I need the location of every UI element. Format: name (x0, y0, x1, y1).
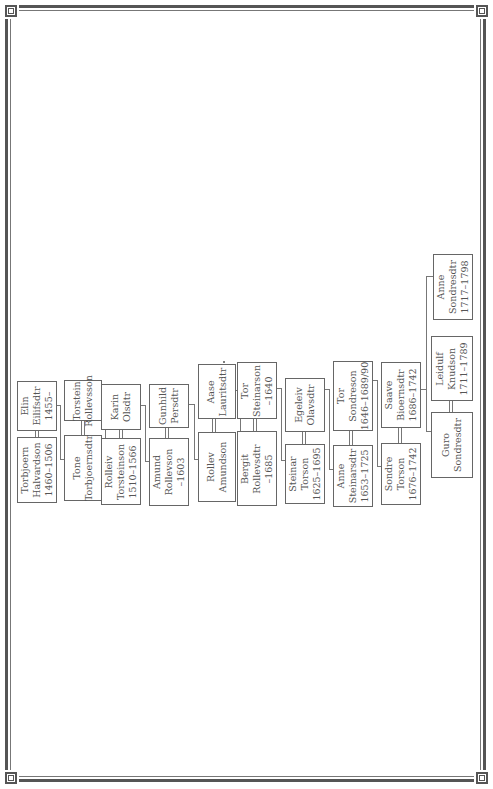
marriage-connector (212, 419, 216, 432)
descent-line (194, 404, 195, 459)
descent-line (377, 380, 378, 466)
person-box-karin[interactable]: KarinOlsdtr (101, 384, 141, 430)
marriage-connector (398, 428, 402, 443)
person-surname: Bioernsdtr (395, 368, 407, 421)
person-surname: Steinarsdtr (347, 449, 359, 504)
person-box-rolleiv[interactable]: RolleivTorsteinson1510–1566 (101, 438, 141, 505)
marriage-connector (449, 401, 453, 412)
person-surname: Rollevsdtr (251, 444, 263, 493)
person-dates: –1685 (263, 444, 275, 493)
person-box-anne-steinarsdtr[interactable]: AnneSteinarsdtr1653–1725 (333, 445, 373, 507)
descent-line (60, 405, 61, 459)
person-name: Tor (239, 364, 251, 416)
person-box-steinar[interactable]: SteinarTorson1625–1695 (285, 444, 325, 504)
person-name: Rollev (205, 442, 217, 493)
person-name: Egeleiv (293, 384, 305, 425)
person-name: Anne (335, 449, 347, 504)
person-box-torbjoern[interactable]: TorbjoernHalvardson1460–1506 (17, 437, 57, 503)
person-name: Elin (19, 387, 31, 426)
person-box-aase[interactable]: AaseLauritsdtr (198, 364, 236, 419)
person-box-amund[interactable]: AmundRollevson–1603 (149, 438, 189, 506)
corner-ornament-icon (3, 770, 19, 786)
person-surname: Torsteinson (115, 443, 127, 499)
person-name: Leidulf (434, 342, 446, 395)
person-name: Torbjoern (19, 442, 31, 497)
person-box-sondre[interactable]: SondreTorson1676–1742 (381, 443, 421, 505)
person-name: Aase (205, 367, 217, 416)
person-name: Saave (383, 368, 395, 421)
person-box-torstein[interactable]: TorsteinRollevsson (64, 380, 102, 421)
person-box-guro[interactable]: GuroSondresdtr (431, 412, 473, 478)
person-box-tor-steinarson[interactable]: TorSteinarson–1640 (237, 362, 277, 419)
person-dates: 1625–1695 (311, 447, 323, 500)
person-surname: Eilifsdtr (31, 387, 43, 426)
descent-line (281, 388, 282, 460)
person-box-gunhild[interactable]: GunhildPersdtr (149, 384, 189, 428)
person-surname: Halvardson (31, 442, 43, 497)
person-box-tor-sondreson[interactable]: TorSondreson1646–1689/90 (333, 361, 373, 431)
person-box-anne-sondresdtr[interactable]: AnneSondresdtr1717–1798 (433, 254, 473, 320)
person-dates: 1686–1742 (407, 368, 419, 421)
person-name: Amund (151, 449, 163, 496)
person-surname: Knudson (446, 342, 458, 395)
descent-line (145, 405, 146, 461)
person-dates: 1510–1566 (127, 443, 139, 499)
person-name: Rolleiv (103, 443, 115, 499)
person-box-leidulf[interactable]: LeidulfKnudson1711–1789 (431, 336, 473, 401)
person-box-elin[interactable]: ElinEilifsdtr1455– (17, 381, 57, 431)
person-surname: Sondresdtr (452, 418, 464, 472)
marriage-connector (119, 430, 123, 438)
person-surname: Sondresdtr (447, 260, 459, 314)
descent-line (426, 276, 427, 431)
person-box-saave[interactable]: SaaveBioernsdtr1686–1742 (381, 362, 421, 428)
person-surname: Torbjoernsdtr (83, 435, 95, 501)
corner-ornament-icon (474, 3, 490, 19)
descent-line (426, 276, 433, 277)
person-dates: 1455– (43, 387, 55, 426)
person-name: Guro (440, 418, 452, 472)
person-name: Tor (335, 362, 347, 430)
person-dates: 1653–1725 (359, 449, 371, 504)
corner-ornament-icon (474, 770, 490, 786)
person-box-tone[interactable]: ToneTorbjoernsdtr (64, 435, 102, 501)
person-name: Bergit (239, 444, 251, 493)
person-name: Sondre (383, 447, 395, 500)
marriage-connector (349, 431, 353, 445)
person-dates: –1603 (175, 449, 187, 496)
person-dates: 1717–1798 (459, 260, 471, 314)
person-name: Karin (109, 392, 121, 422)
annotation-mark (223, 361, 225, 363)
marriage-connector (253, 419, 257, 431)
person-name: Steinar (287, 447, 299, 500)
person-surname: Olsdtr (121, 392, 133, 422)
person-box-egeleiv[interactable]: EgeleivOlavsdtr (285, 378, 325, 432)
person-surname: Torson (395, 447, 407, 500)
person-box-bergit[interactable]: BergitRollevsdtr–1685 (237, 431, 277, 506)
person-name: Tone (71, 435, 83, 501)
person-name: Torstein (71, 375, 83, 427)
person-surname: Persdtr (169, 387, 181, 425)
person-dates: 1711–1789 (458, 342, 470, 395)
marriage-connector (165, 428, 169, 438)
person-name: Gunhild (157, 387, 169, 425)
person-surname: Olavsdtr (305, 384, 317, 425)
person-dates: 1460–1506 (43, 442, 55, 497)
person-name: Anne (435, 260, 447, 314)
descent-line (329, 389, 330, 469)
person-surname: Amundson (217, 442, 229, 493)
person-dates: 1646–1689/90 (359, 362, 371, 430)
person-surname: Rollevsson (83, 375, 95, 427)
person-surname: Steinarson (251, 364, 263, 416)
person-dates: –1640 (263, 364, 275, 416)
marriage-connector (302, 432, 306, 444)
person-surname: Sondreson (347, 362, 359, 430)
corner-ornament-icon (3, 3, 19, 19)
person-surname: Lauritsdtr (217, 367, 229, 416)
person-surname: Rollevson (163, 449, 175, 496)
person-dates: 1676–1742 (407, 447, 419, 500)
marriage-connector (81, 421, 85, 435)
person-box-rollev[interactable]: RollevAmundson (198, 432, 236, 502)
person-surname: Torson (299, 447, 311, 500)
